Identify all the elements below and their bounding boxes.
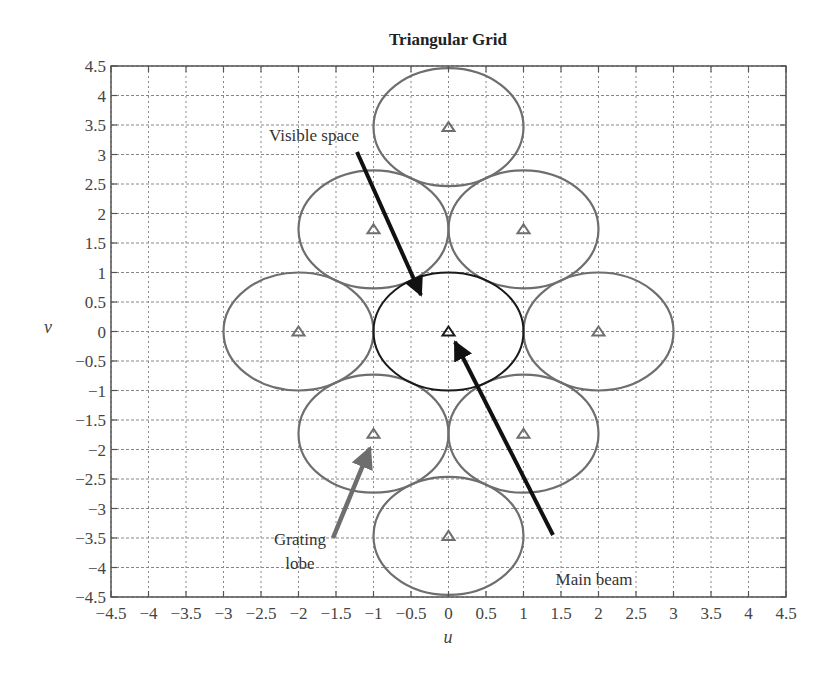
- x-tick-label: 4.5: [775, 604, 796, 623]
- x-tick-label: −2.5: [246, 604, 277, 623]
- y-tick-label: 4: [98, 87, 107, 106]
- x-tick-label: −1.5: [321, 604, 352, 623]
- y-tick-label: 0: [98, 323, 107, 342]
- y-tick-label: −2.5: [75, 470, 106, 489]
- y-tick-label: −0.5: [75, 352, 106, 371]
- x-tick-label: −0.5: [396, 604, 427, 623]
- y-tick-label: 4.5: [85, 57, 106, 76]
- y-tick-label: 3: [98, 146, 107, 165]
- y-tick-label: 1: [98, 264, 107, 283]
- y-tick-label: 1.5: [85, 234, 106, 253]
- y-tick-label: −3.5: [75, 529, 106, 548]
- y-tick-label: −2: [88, 441, 106, 460]
- grating-lobe-circle: [449, 170, 599, 288]
- visible-space-label: Visible space: [269, 126, 359, 145]
- y-axis-label: v: [44, 317, 52, 337]
- grid-lines: [111, 66, 786, 597]
- x-tick-label: −1: [364, 604, 382, 623]
- x-tick-label: 2.5: [625, 604, 646, 623]
- grating-lobe-marker-icon: [443, 531, 455, 540]
- visible-space-arrow-icon: [357, 152, 421, 295]
- x-tick-label: −3.5: [171, 604, 202, 623]
- annotations: Visible spaceMain beamGratinglobe: [269, 126, 633, 589]
- y-tick-label: 2: [98, 205, 107, 224]
- y-tick-label: 0.5: [85, 293, 106, 312]
- x-tick-label: 1: [519, 604, 528, 623]
- chart-title: Triangular Grid: [389, 30, 507, 49]
- y-tick-label: 2.5: [85, 175, 106, 194]
- x-tick-label: 1.5: [550, 604, 571, 623]
- triangular-grid-chart: −4.5−4−3.5−3−2.5−2−1.5−1−0.500.511.522.5…: [0, 0, 839, 681]
- x-axis-label: u: [444, 627, 453, 647]
- main-beam-label: Main beam: [556, 570, 633, 589]
- y-tick-label: −4.5: [75, 588, 106, 607]
- y-tick-label: −4: [88, 559, 107, 578]
- x-tick-label: 3: [669, 604, 678, 623]
- x-tick-label: 3.5: [700, 604, 721, 623]
- x-tick-label: −4: [139, 604, 158, 623]
- x-tick-label: 0.5: [475, 604, 496, 623]
- grating-lobe-label: Grating: [274, 530, 326, 549]
- y-tick-label: −3: [88, 500, 106, 519]
- x-tick-label: −3: [214, 604, 232, 623]
- grating-lobe-label: lobe: [285, 554, 314, 573]
- y-tick-label: −1: [88, 382, 106, 401]
- y-tick-label: −1.5: [75, 411, 106, 430]
- x-tick-label: −2: [289, 604, 307, 623]
- x-tick-label: 4: [744, 604, 753, 623]
- y-tick-label: 3.5: [85, 116, 106, 135]
- x-tick-label: 2: [594, 604, 603, 623]
- x-tick-label: 0: [444, 604, 453, 623]
